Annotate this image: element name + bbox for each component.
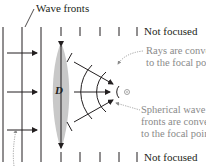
rays-label-line1: Rays are converging [146,45,206,56]
bottom-leader [13,130,16,166]
wave-fronts-label: Wave fronts [36,3,89,15]
plane-wave-fronts [3,27,41,162]
wave-fronts-leader [25,9,34,27]
rays-label-line2: to the focal point. [146,57,206,68]
unfocused-fronts-bottom [61,152,137,162]
spherical-label-line2: fronts are converging [141,116,206,127]
converging-rays [74,62,113,122]
spherical-label-line3: to the focal point. [141,128,206,139]
spherical-label-line1: Spherical wave [141,104,205,115]
rays-leader [118,51,143,64]
aperture-label: D [55,85,63,97]
focal-point-icon [125,90,130,95]
not-focused-bottom-label: Not focused [144,152,197,164]
wave-front-diagram: Wave fronts Not focused Rays are converg… [0,0,206,167]
spherical-leader [116,103,140,110]
unfocused-fronts-top [61,27,137,36]
not-focused-top-label: Not focused [144,26,197,38]
